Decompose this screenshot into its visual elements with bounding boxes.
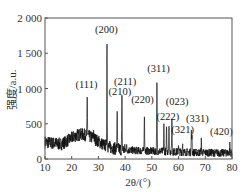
y-axis-title: 强度/a.u. (5, 69, 18, 110)
y-axis: 05001 0001 5002 000 (17, 12, 48, 165)
peak-label: (211) (114, 76, 137, 88)
peak-label: (321) (171, 124, 194, 136)
x-tick-label: 40 (120, 161, 132, 173)
x-axis-title: 2θ/(°) (125, 176, 151, 189)
y-tick-label: 1 500 (17, 47, 42, 59)
peak-labels: (111)(200)(210)(211)(220)(311)(222)(023)… (75, 24, 233, 138)
y-tick-label: 500 (26, 118, 43, 130)
xrd-chart: (111)(200)(210)(211)(220)(311)(222)(023)… (0, 0, 245, 192)
x-tick-label: 50 (146, 161, 158, 173)
y-tick-label: 1 000 (17, 83, 42, 95)
peak-label: (222) (157, 111, 180, 123)
x-tick-label: 60 (173, 161, 185, 173)
peak-label: (210) (108, 86, 131, 98)
x-tick-label: 70 (200, 161, 212, 173)
peak-label: (220) (131, 94, 154, 106)
peak-label: (023) (166, 96, 189, 108)
peak-label: (311) (147, 63, 170, 75)
peak-label: (420) (210, 126, 233, 138)
x-tick-label: 80 (227, 161, 239, 173)
y-tick-label: 2 000 (17, 12, 42, 24)
x-tick-label: 30 (93, 161, 105, 173)
y-tick-label: 0 (37, 153, 43, 165)
peak-label: (200) (95, 24, 118, 36)
peak-label: (111) (75, 79, 97, 91)
x-tick-label: 20 (66, 161, 78, 173)
peak-label: (331) (186, 113, 209, 125)
